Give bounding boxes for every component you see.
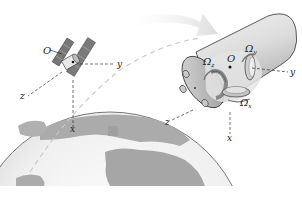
- cylinder-origin-label: O: [227, 53, 235, 64]
- greenland-landmass: [18, 121, 46, 137]
- wheel-x: [222, 87, 250, 98]
- satellite-origin-dot: [72, 61, 75, 64]
- earth: [0, 112, 248, 208]
- satellite-x-label: x: [70, 124, 75, 134]
- transfer-arrow-icon: [120, 14, 218, 36]
- satellite-z-label: z: [19, 91, 25, 101]
- cylinder-y-label: y: [289, 67, 296, 77]
- cylinder-z-axis: [172, 110, 193, 120]
- cylinder-z-label: z: [164, 117, 170, 127]
- satellite: [52, 38, 95, 77]
- cylinder-origin-dot: [229, 66, 232, 69]
- cylinder-x-label: x: [227, 133, 232, 143]
- wheel-y: [245, 54, 255, 80]
- omega-x-label: Ωx: [239, 97, 252, 109]
- satellite-y-label: y: [116, 59, 123, 69]
- gyroscope-cylinder: [174, 14, 297, 115]
- satellite-origin-label: O: [43, 45, 51, 56]
- satellite-gyroscope-diagram: O y z x: [0, 0, 302, 208]
- satellite-z-axis: [28, 72, 62, 96]
